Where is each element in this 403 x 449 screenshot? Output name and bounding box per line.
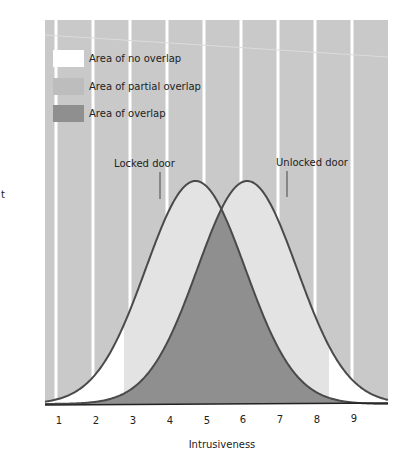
- x-tick-6: 6: [240, 414, 246, 425]
- x-tick-labels: 1 2 3 4 5 6 7 8 9: [56, 413, 357, 426]
- annotation-unlocked-door: Unlocked door: [276, 157, 349, 168]
- x-tick-7: 7: [277, 414, 283, 425]
- x-tick-8: 8: [314, 414, 320, 425]
- x-tick-2: 2: [93, 415, 99, 426]
- y-axis-label-fragment: t: [1, 189, 5, 200]
- x-tick-5: 5: [204, 415, 210, 426]
- gridline: [351, 20, 354, 404]
- legend-label-partial-overlap: Area of partial overlap: [89, 81, 201, 92]
- legend-label-overlap: Area of overlap: [89, 108, 166, 119]
- x-tick-3: 3: [130, 415, 136, 426]
- legend-label-no-overlap: Area of no overlap: [89, 53, 181, 64]
- x-axis-title: Intrusiveness: [189, 439, 256, 449]
- x-tick-9: 9: [351, 413, 357, 424]
- gridline: [55, 20, 58, 404]
- legend-swatch-no-overlap: [53, 50, 84, 67]
- gridline: [92, 20, 95, 404]
- legend-swatch-overlap: [53, 105, 84, 122]
- overlap-chart: Area of no overlap Area of partial overl…: [0, 0, 403, 449]
- x-tick-1: 1: [56, 415, 62, 426]
- legend-swatch-partial-overlap: [53, 78, 84, 95]
- x-tick-4: 4: [167, 415, 173, 426]
- annotation-locked-door: Locked door: [114, 158, 176, 169]
